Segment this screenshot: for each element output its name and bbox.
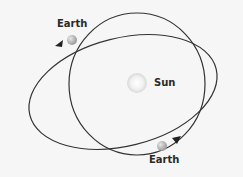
sun-icon bbox=[127, 73, 147, 93]
arrow-left-icon bbox=[55, 40, 63, 47]
earth-bottom-label: Earth bbox=[149, 154, 179, 165]
elliptical-orbit bbox=[17, 16, 229, 167]
orbit-diagram: Earth Sun Earth bbox=[0, 0, 243, 177]
orbit-diagram-svg bbox=[0, 0, 243, 177]
sun-label: Sun bbox=[154, 77, 175, 88]
earth-top-label: Earth bbox=[57, 18, 87, 29]
earth-bottom-icon bbox=[157, 141, 167, 151]
earth-top-icon bbox=[67, 35, 77, 45]
